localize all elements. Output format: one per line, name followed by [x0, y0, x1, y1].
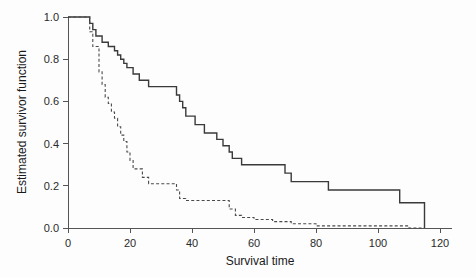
y-tick-label: 0.8	[44, 53, 59, 65]
data-curves	[68, 17, 425, 228]
survival-chart-figure: 020406080100120 0.00.20.40.60.81.0 Survi…	[0, 0, 476, 277]
y-tick-label: 0.2	[44, 180, 59, 192]
y-axis-ticks: 0.00.20.40.60.81.0	[44, 11, 68, 234]
x-tick-label: 20	[124, 237, 136, 249]
series-dashed-curve	[68, 17, 425, 228]
x-tick-label: 40	[186, 237, 198, 249]
x-tick-label: 80	[310, 237, 322, 249]
y-tick-label: 1.0	[44, 11, 59, 23]
x-axis-ticks: 020406080100120	[65, 228, 449, 249]
y-axis-title: Estimated survivor function	[15, 50, 29, 194]
plot-canvas: 020406080100120 0.00.20.40.60.81.0 Survi…	[0, 0, 476, 277]
x-tick-label: 60	[248, 237, 260, 249]
y-tick-label: 0.0	[44, 222, 59, 234]
axes	[68, 17, 452, 228]
y-tick-label: 0.6	[44, 95, 59, 107]
x-axis-title: Survival time	[226, 254, 295, 268]
x-tick-label: 120	[431, 237, 449, 249]
x-tick-label: 100	[369, 237, 387, 249]
series-solid-curve	[68, 17, 425, 228]
x-tick-label: 0	[65, 237, 71, 249]
y-tick-label: 0.4	[44, 138, 59, 150]
